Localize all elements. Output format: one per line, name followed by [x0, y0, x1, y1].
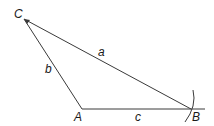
vertex-label-c: C — [14, 7, 23, 21]
vertex-label-b: B — [192, 110, 200, 124]
side-label-b: b — [45, 62, 52, 76]
side-label-a: a — [98, 45, 105, 59]
triangle-diagram: C a b A c B — [0, 0, 214, 126]
side-b-line — [24, 19, 82, 109]
vertex-label-a: A — [73, 110, 82, 124]
side-label-c: c — [135, 110, 141, 124]
